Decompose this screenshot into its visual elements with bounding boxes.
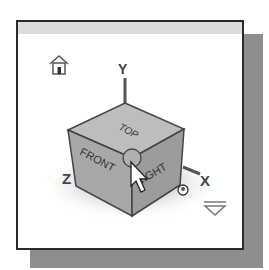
home-icon[interactable] [50,56,68,74]
viewcube-window: Y Z X TOP FRONT RIGHT [16,20,244,250]
chevron-down-icon[interactable] [204,202,226,215]
viewcube-viewport[interactable]: Y Z X TOP FRONT RIGHT [18,34,242,248]
window-header [18,22,242,34]
z-axis-label: Z [62,170,71,187]
x-axis-label: X [200,172,210,189]
y-axis-label: Y [118,61,128,77]
orbit-sphere-icon[interactable] [178,185,188,195]
